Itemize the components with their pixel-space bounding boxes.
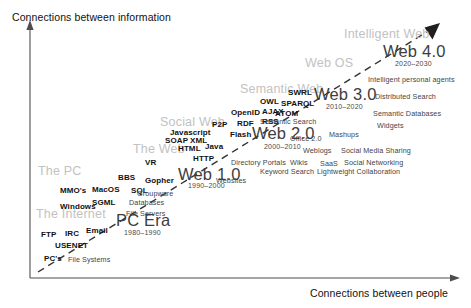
tech-term-soap: SOAP: [165, 137, 188, 145]
app-term-file-servers: File Servers: [126, 210, 166, 217]
tech-term-usenet: USENET: [55, 242, 88, 250]
tech-term-vr: VR: [145, 159, 156, 167]
app-term-distributed-search: Distributed Search: [375, 93, 436, 100]
stage-name-web-4: Web 4.0: [383, 43, 446, 60]
stage-name-web-3: Web 3.0: [314, 86, 377, 103]
app-term-social-networking: Social Networking: [344, 159, 403, 166]
era-label-the-pc: The PC: [38, 165, 82, 178]
tech-term-html: HTML: [178, 145, 201, 153]
app-term-mashups: Mashups: [329, 131, 359, 138]
app-term-file-systems: File Systems: [68, 256, 110, 263]
tech-term-javascript: Javascript: [170, 129, 211, 137]
tech-term-ftp: FTP: [41, 231, 56, 239]
era-label-intelligent-web: Intelligent Web: [344, 28, 429, 41]
tech-term-java: Java: [205, 143, 223, 151]
tech-term-windows: Windows: [60, 203, 96, 211]
tech-term-gopher: Gopher: [145, 177, 174, 185]
stage-years-pc-era: 1980–1990: [124, 229, 161, 236]
tech-term-openid: OpenID: [231, 109, 260, 117]
app-term-websites: Websites: [216, 177, 246, 184]
app-term-keyword-search: Keyword Search: [260, 168, 314, 175]
web-evolution-diagram: Connections between information Connecti…: [0, 0, 471, 308]
tech-term-flash: Flash: [230, 131, 251, 139]
x-axis: [30, 274, 460, 281]
app-term-semantic-search: Semantic Search: [260, 118, 316, 125]
stage-years-web-3: 2010–2020: [326, 103, 363, 110]
tech-term-owl: OWL: [260, 98, 279, 106]
stage-years-web-4: 2020–2030: [395, 60, 432, 67]
x-axis-label: Connections between people: [310, 288, 448, 299]
tech-term-macos: MacOS: [92, 186, 120, 194]
app-term-social-media-sharing: Social Media Sharing: [341, 147, 411, 154]
era-label-web-os: Web OS: [305, 57, 353, 70]
app-term-weblogs: Weblogs: [303, 147, 332, 154]
stage-years-web-2: 2000–2010: [264, 143, 301, 150]
app-term-intelligent-personal-agents: Intelligent personal agents: [368, 76, 455, 83]
tech-term-email: Email: [86, 227, 108, 235]
y-axis: [26, 20, 33, 278]
y-axis-label: Connections between information: [12, 12, 171, 23]
tech-term-sparql: SPARQL: [281, 100, 314, 108]
app-term-databases: Databases: [129, 199, 164, 206]
tech-term-sgml: SGML: [92, 199, 116, 207]
app-term-lightweight-collaboration: Lightweight Collaboration: [317, 168, 400, 175]
app-term-wikis: Wikis: [290, 159, 308, 166]
tech-term-irc: IRC: [65, 230, 79, 238]
tech-term-bbs: BBS: [118, 174, 135, 182]
tech-term-p2p: P2P: [212, 121, 227, 129]
tech-term-pcs: PC's: [44, 255, 62, 263]
app-term-directory-portals: Directory Portals: [231, 159, 286, 166]
app-term-office-2: Office 2.0: [290, 135, 322, 142]
app-term-widgets: Widgets: [377, 122, 404, 129]
tech-term-rdf: RDF: [237, 120, 254, 128]
app-term-semantic-databases: Semantic Databases: [373, 110, 441, 117]
tech-term-http: HTTP: [193, 155, 214, 163]
tech-term-ajax: AJAX: [262, 108, 284, 116]
tech-term-swrl: SWRL: [288, 89, 312, 97]
tech-term-xml: XML: [190, 137, 207, 145]
tech-term-mmos: MMO's: [60, 187, 86, 195]
app-term-groupware: Groupware: [137, 190, 173, 197]
